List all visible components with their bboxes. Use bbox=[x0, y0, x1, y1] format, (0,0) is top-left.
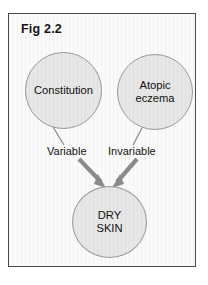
arrow-variable-to-dry-skin bbox=[79, 159, 106, 188]
node-dry-skin: DRY SKIN bbox=[72, 186, 147, 258]
edge-label-variable: Variable bbox=[47, 145, 87, 157]
node-dry-skin-label-line1: DRY bbox=[93, 209, 125, 222]
connector-atopic-eczema bbox=[133, 128, 142, 145]
arrow-invariable-to-dry-skin bbox=[112, 159, 137, 188]
connector-constitution bbox=[53, 127, 64, 145]
node-atopic-eczema-label: Atopic eczema bbox=[132, 79, 177, 105]
node-dry-skin-label-line2: SKIN bbox=[93, 222, 125, 235]
figure-frame: Fig 2.2 Constitution Atopic eczem bbox=[8, 13, 196, 267]
node-atopic-eczema-label-line1: Atopic bbox=[132, 79, 177, 92]
node-atopic-eczema: Atopic eczema bbox=[117, 54, 193, 130]
node-dry-skin-label: DRY SKIN bbox=[93, 209, 125, 235]
figure-root: Fig 2.2 Constitution Atopic eczem bbox=[0, 0, 208, 285]
node-constitution-label: Constitution bbox=[31, 84, 96, 97]
node-constitution: Constitution bbox=[25, 52, 102, 129]
node-atopic-eczema-label-line2: eczema bbox=[132, 92, 177, 105]
edge-label-invariable: Invariable bbox=[108, 145, 156, 157]
